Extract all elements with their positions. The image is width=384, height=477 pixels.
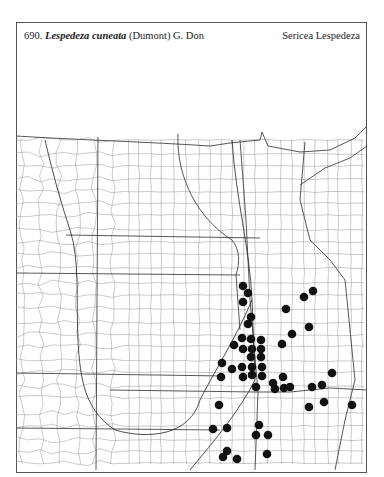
- county-map: [16, 75, 367, 473]
- occurrence-dot: [247, 353, 256, 362]
- occurrence-dot: [282, 305, 291, 314]
- occurrence-dot: [258, 372, 267, 381]
- occurrence-dot: [230, 341, 239, 350]
- occurrence-dot: [248, 345, 257, 354]
- occurrence-dot: [239, 373, 248, 382]
- map-header: 690. Lespedeza cuneata (Dumont) G. Don S…: [24, 28, 360, 44]
- occurrence-dot: [252, 383, 261, 392]
- occurrence-dot: [215, 401, 224, 410]
- occurrence-dot: [218, 359, 227, 368]
- occurrence-dot: [248, 371, 257, 380]
- county-boundaries: [16, 138, 364, 466]
- occurrence-dot: [219, 453, 228, 462]
- occurrence-dot: [257, 353, 266, 362]
- state-line-5: [110, 390, 255, 392]
- occurrence-dot: [309, 287, 318, 296]
- occurrence-dot: [244, 289, 253, 298]
- authority: (Dumont) G. Don: [129, 30, 204, 41]
- occurrence-dot: [217, 373, 226, 382]
- occurrence-dot: [264, 431, 273, 440]
- occurrence-dot: [348, 401, 357, 410]
- occurrence-dot: [328, 369, 337, 378]
- common-name: Sericea Lespedeza: [282, 28, 360, 44]
- missouri-river: [178, 134, 240, 330]
- occurrence-dot: [258, 363, 267, 372]
- scientific-name: Lespedeza cuneata: [45, 30, 126, 41]
- occurrence-dot: [320, 398, 329, 407]
- state-line-6: [16, 428, 220, 430]
- occurrence-dot: [239, 282, 248, 291]
- occurrence-dot: [252, 431, 261, 440]
- occurrence-dot: [305, 323, 314, 332]
- occurrence-dot: [288, 330, 297, 339]
- state-boundaries: [16, 126, 367, 470]
- occurrence-dot: [263, 450, 272, 459]
- occurrence-dot: [247, 335, 256, 344]
- occurrence-dot: [238, 334, 247, 343]
- range-lines: [45, 140, 255, 470]
- occurrence-dot: [228, 365, 237, 374]
- occurrence-dot: [257, 336, 266, 345]
- occurrence-dot: [279, 373, 288, 382]
- state-line-4: [16, 373, 225, 376]
- occurrence-dot: [305, 403, 314, 412]
- occurrence-dot: [238, 363, 247, 372]
- occurrence-dot: [223, 424, 232, 433]
- occurrence-dot: [257, 345, 266, 354]
- occurrence-dot: [286, 383, 295, 392]
- species-title: 690. Lespedeza cuneata (Dumont) G. Don: [24, 28, 204, 44]
- occurrence-dot: [248, 363, 257, 372]
- occurrence-dot: [308, 383, 317, 392]
- state-line-1: [96, 137, 98, 470]
- species-number: 690.: [24, 30, 42, 41]
- occurrence-dot: [300, 293, 309, 302]
- occurrence-dot: [271, 385, 280, 394]
- occurrence-dot: [239, 345, 248, 354]
- distribution-map: [16, 75, 367, 473]
- occurrence-dot: [209, 425, 218, 434]
- occurrence-dot: [244, 320, 253, 329]
- state-line-2: [66, 235, 260, 238]
- occurrence-dot: [255, 421, 264, 430]
- north-border: [16, 126, 367, 152]
- state-line-3: [16, 273, 240, 275]
- occurrence-dot: [233, 455, 242, 464]
- occurrence-dot: [278, 340, 287, 349]
- occurrence-dot: [318, 381, 327, 390]
- occurrence-dot: [239, 298, 248, 307]
